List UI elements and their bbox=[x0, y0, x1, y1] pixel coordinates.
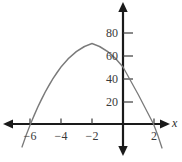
x-axis-left-arrowhead bbox=[3, 120, 13, 129]
y-tick-label-60: 60 bbox=[96, 50, 118, 62]
x-tick-label-2: 2 bbox=[143, 130, 165, 142]
y-axis-down-arrowhead bbox=[118, 146, 127, 156]
graph-figure: 80 60 40 20 −6 −4 −2 2 x bbox=[0, 0, 182, 162]
y-tick-label-40: 40 bbox=[96, 73, 118, 85]
y-tick-label-80: 80 bbox=[96, 27, 118, 39]
x-tick-label-minus-2: −2 bbox=[80, 130, 104, 142]
x-tick-label-minus-6: −6 bbox=[18, 130, 42, 142]
y-tick-label-20: 20 bbox=[96, 96, 118, 108]
x-axis bbox=[3, 120, 170, 129]
x-tick-label-minus-4: −4 bbox=[49, 130, 73, 142]
x-axis-label: x bbox=[172, 117, 177, 129]
y-axis-ticks bbox=[123, 33, 133, 102]
x-axis-right-arrowhead bbox=[160, 120, 170, 129]
y-axis-up-arrowhead bbox=[118, 2, 127, 12]
